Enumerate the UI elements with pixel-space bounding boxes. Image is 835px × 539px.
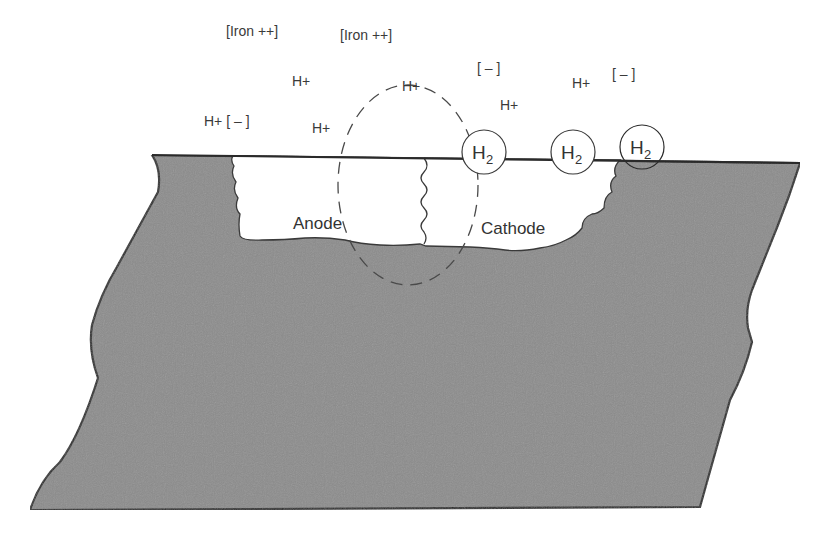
cathode-label: Cathode (481, 219, 545, 238)
ion-label-hydrogen-2: H+ (402, 78, 420, 94)
svg-text:2: 2 (575, 152, 582, 167)
ion-label-iron-1: [Iron ++] (226, 23, 278, 39)
ion-label-negative-2: [ – ] (612, 66, 635, 82)
svg-text:H: H (472, 142, 486, 163)
svg-text:2: 2 (486, 152, 493, 167)
ion-label-iron-2: [Iron ++] (340, 27, 392, 43)
anode-label: Anode (293, 214, 342, 233)
svg-text:2: 2 (644, 147, 651, 162)
ion-label-hydrogen-3: H+ (572, 75, 590, 91)
hydrogen-bubble-1: H 2 (462, 130, 506, 174)
ion-label-hydrogen-5: H+ (312, 120, 330, 136)
hydrogen-bubble-2: H 2 (551, 130, 595, 174)
ion-label-hydrogen-negative: H+ [ – ] (204, 113, 250, 129)
svg-text:H: H (561, 142, 575, 163)
ion-label-negative-1: [ – ] (477, 60, 500, 76)
ion-label-hydrogen-4: H+ (500, 97, 518, 113)
corrosion-diagram: H 2 H 2 H 2 [Iron ++] [Iron ++] H+ H+ [ … (0, 0, 835, 539)
ion-label-hydrogen-1: H+ (292, 73, 310, 89)
svg-text:H: H (630, 137, 644, 158)
